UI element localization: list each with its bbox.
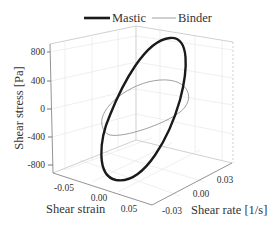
y-axis-title: Shear rate [1/s]	[191, 203, 267, 217]
y-tick-neg003: -0.03	[162, 206, 182, 216]
legend: Mastic Binder	[84, 11, 213, 25]
z-tick-neg400: -400	[28, 132, 46, 142]
x-axis-title: Shear strain	[46, 202, 106, 216]
legend-label-mastic: Mastic	[112, 11, 146, 25]
axes-box	[50, 26, 233, 173]
z-tick-0: 0	[40, 104, 45, 114]
z-tick-neg800: -800	[28, 160, 46, 170]
axes-front	[50, 44, 232, 205]
y-tick-003: 0.03	[217, 175, 234, 185]
y-tick-000: 0.00	[193, 189, 210, 199]
series-mastic	[101, 38, 185, 180]
x-tick-005: 0.05	[121, 204, 138, 214]
z-axis-title: Shear stress [Pa]	[12, 66, 26, 149]
x-tick-neg005: -0.05	[54, 183, 74, 193]
chart-3d-lissajous: Mastic Binder	[0, 0, 271, 226]
z-tick-400: 400	[31, 76, 46, 86]
legend-label-binder: Binder	[178, 11, 213, 25]
z-axis-ticks: 800 400 0 -400 -800	[28, 47, 53, 170]
z-tick-800: 800	[31, 47, 46, 57]
series-binder	[102, 80, 189, 136]
